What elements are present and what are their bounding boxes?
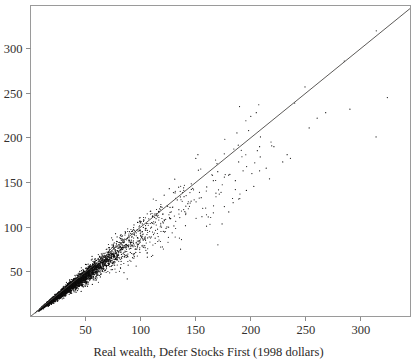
x-tick-label: 300 xyxy=(352,323,371,337)
x-tick-label: 150 xyxy=(186,323,205,337)
x-tick-label: 100 xyxy=(131,323,150,337)
y-tick-label: 50 xyxy=(10,265,23,279)
plot-canvas: 50100150200250300 50100150200250300 Real… xyxy=(0,0,417,364)
x-axis-title: Real wealth, Defer Stocks First (1998 do… xyxy=(93,345,323,359)
x-tick-label: 200 xyxy=(241,323,260,337)
y-tick-label: 250 xyxy=(4,87,23,101)
y-tick-label: 200 xyxy=(4,131,23,145)
identity-reference-line xyxy=(31,8,411,316)
y-tick-label: 100 xyxy=(4,221,23,235)
x-axis-ticks: 50100150200250300 xyxy=(79,317,370,337)
scatter-plot-figure: 50100150200250300 50100150200250300 Real… xyxy=(0,0,417,364)
x-tick-label: 50 xyxy=(79,323,92,337)
y-axis-ticks: 50100150200250300 xyxy=(4,42,31,279)
x-tick-label: 250 xyxy=(296,323,315,337)
y-tick-label: 150 xyxy=(4,176,23,190)
y-tick-label: 300 xyxy=(4,42,23,56)
data-points-group xyxy=(35,30,388,313)
